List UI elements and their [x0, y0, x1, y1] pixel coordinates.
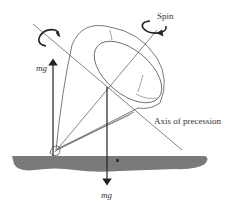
spinning-top-diagram: Spin Axis of precession mg mg [0, 0, 239, 207]
spin-axis-line [55, 30, 157, 152]
spin-label: Spin [157, 12, 174, 21]
ground-surface [12, 156, 208, 172]
axis-of-precession-label: Axis of precession [154, 117, 221, 126]
mg-downward-label: mg [101, 191, 112, 200]
mg-upward-label: mg [36, 64, 47, 73]
ground-marker [116, 159, 119, 162]
spin-rotation-icon [142, 21, 166, 36]
diagram-canvas [0, 0, 239, 207]
